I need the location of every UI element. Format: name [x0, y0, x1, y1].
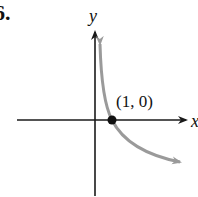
- point-marker: [108, 116, 117, 125]
- graph: y x (1, 0): [0, 0, 198, 197]
- x-axis-label: x: [190, 111, 198, 131]
- y-axis-label: y: [87, 6, 97, 26]
- point-label: (1, 0): [116, 92, 153, 111]
